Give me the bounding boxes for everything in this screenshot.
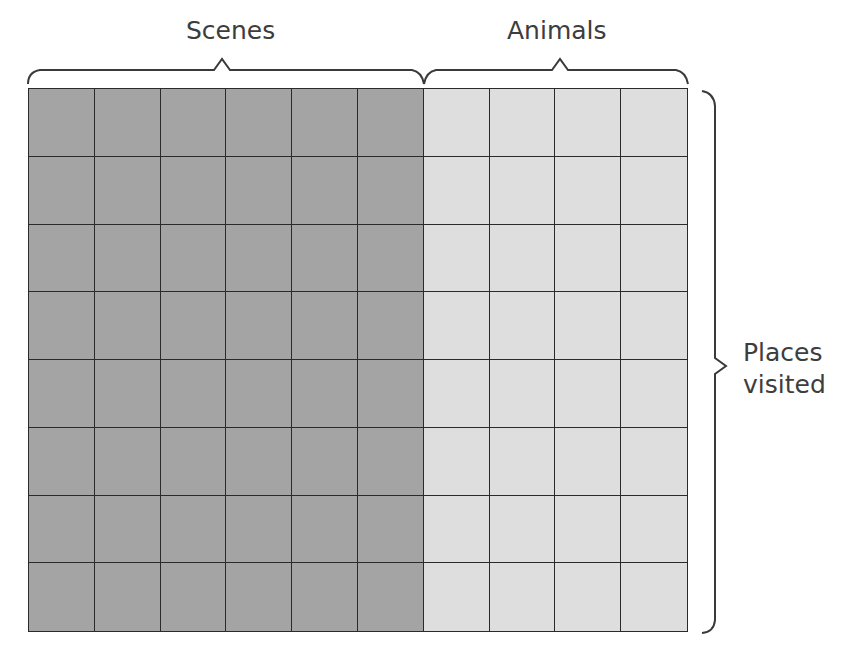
grid-cell	[621, 563, 687, 631]
grid-cell	[292, 496, 358, 564]
grid-cell	[555, 89, 621, 157]
grid-cell	[292, 292, 358, 360]
grid-cell	[292, 157, 358, 225]
grid-cell	[226, 428, 292, 496]
grid-cell	[95, 360, 161, 428]
grid-cell	[226, 225, 292, 293]
grid-cell	[226, 563, 292, 631]
grid-cell	[555, 225, 621, 293]
grid-cell	[358, 428, 424, 496]
grid-cell	[95, 428, 161, 496]
grid-cell	[226, 89, 292, 157]
grid-cell	[424, 89, 490, 157]
grid-cell	[292, 360, 358, 428]
grid-cell	[490, 360, 556, 428]
places-visited-label-line1: Places	[743, 338, 823, 367]
grid-cell	[490, 428, 556, 496]
grid-cell	[226, 157, 292, 225]
grid-cell	[95, 89, 161, 157]
grid-cell	[621, 496, 687, 564]
grid-cell	[490, 292, 556, 360]
grid-cell	[555, 157, 621, 225]
grid-cell	[424, 428, 490, 496]
grid-cell	[95, 563, 161, 631]
grid-cell	[29, 225, 95, 293]
grid-cell	[424, 496, 490, 564]
grid-cell	[490, 496, 556, 564]
grid-cell	[161, 225, 227, 293]
grid-cell	[95, 225, 161, 293]
grid-cell	[161, 496, 227, 564]
grid-cell	[621, 89, 687, 157]
grid-cell	[161, 428, 227, 496]
grid-cell	[292, 225, 358, 293]
grid-cell	[292, 89, 358, 157]
grid-cell	[161, 292, 227, 360]
grid-cell	[490, 563, 556, 631]
grid-cell	[424, 292, 490, 360]
places-visited-label-line2: visited	[743, 370, 826, 399]
grid-cell	[358, 496, 424, 564]
grid-cell	[161, 89, 227, 157]
animals-brace	[424, 59, 688, 84]
grid-cell	[621, 157, 687, 225]
grid-cell	[555, 292, 621, 360]
grid-cell	[358, 89, 424, 157]
grid-cell	[292, 563, 358, 631]
grid-cell	[490, 89, 556, 157]
grid-cell	[161, 360, 227, 428]
grid-cell	[358, 360, 424, 428]
grid-cell	[226, 292, 292, 360]
grid-cell	[424, 157, 490, 225]
grid-cell	[621, 360, 687, 428]
grid-cell	[424, 360, 490, 428]
grid-cell	[29, 563, 95, 631]
grid-cell	[226, 360, 292, 428]
grid-cell	[424, 225, 490, 293]
grid-cell	[29, 428, 95, 496]
grid-cell	[621, 225, 687, 293]
grid-cell	[555, 360, 621, 428]
grid-cell	[358, 292, 424, 360]
grid-cell	[29, 496, 95, 564]
grid-cell	[95, 292, 161, 360]
grid-cell	[95, 496, 161, 564]
grid-cell	[29, 292, 95, 360]
grid-cell	[29, 157, 95, 225]
grid-cell	[226, 496, 292, 564]
grid-cell	[358, 157, 424, 225]
scenes-brace	[28, 59, 424, 84]
grid-cell	[292, 428, 358, 496]
animals-label: Animals	[507, 16, 607, 45]
scenes-label: Scenes	[186, 16, 275, 45]
grid-cell	[358, 225, 424, 293]
grid-cell	[490, 225, 556, 293]
area-model-grid	[28, 88, 688, 632]
grid-cell	[621, 428, 687, 496]
grid-cell	[29, 360, 95, 428]
grid-cell	[555, 428, 621, 496]
grid-cell	[29, 89, 95, 157]
grid-cell	[555, 496, 621, 564]
grid-cell	[555, 563, 621, 631]
grid-cell	[95, 157, 161, 225]
grid-cell	[490, 157, 556, 225]
places-brace	[702, 91, 726, 633]
grid-cell	[358, 563, 424, 631]
grid-cell	[424, 563, 490, 631]
grid-cell	[621, 292, 687, 360]
grid-cell	[161, 563, 227, 631]
grid-cell	[161, 157, 227, 225]
